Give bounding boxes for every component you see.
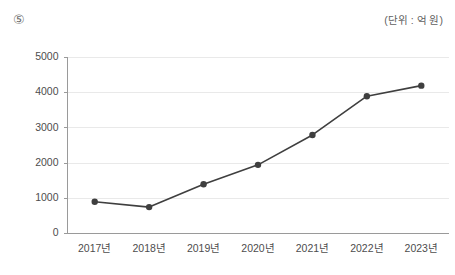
question-number-marker: ⑤ xyxy=(13,12,25,28)
y-tick-label: 0 xyxy=(53,226,59,238)
data-point xyxy=(418,82,424,88)
x-tick-label: 2018년 xyxy=(132,242,165,254)
line-chart: 010002000300040005000 2017년2018년2019년202… xyxy=(0,40,455,275)
chart-svg: 010002000300040005000 2017년2018년2019년202… xyxy=(0,40,455,275)
gridlines xyxy=(68,58,449,199)
y-tick-label: 4000 xyxy=(35,85,59,97)
y-tick-labels: 010002000300040005000 xyxy=(35,50,59,238)
chart-header: ⑤ (단위 : 억 원) xyxy=(0,12,455,34)
x-tick-label: 2017년 xyxy=(78,242,111,254)
x-tick-labels: 2017년2018년2019년2020년2021년2022년2023년 xyxy=(78,242,438,254)
y-tick-label: 5000 xyxy=(35,50,59,62)
x-tick-label: 2022년 xyxy=(350,242,383,254)
y-tick-label: 1000 xyxy=(35,191,59,203)
unit-note-label: (단위 : 억 원) xyxy=(384,13,443,28)
y-tick-label: 2000 xyxy=(35,156,59,168)
y-tick-marks xyxy=(64,58,68,234)
data-point xyxy=(146,204,152,210)
data-point xyxy=(255,162,261,168)
data-point xyxy=(92,199,98,205)
x-tick-label: 2020년 xyxy=(241,242,274,254)
x-tick-label: 2021년 xyxy=(296,242,329,254)
y-tick-label: 3000 xyxy=(35,121,59,133)
data-point xyxy=(200,181,206,187)
series-polyline xyxy=(95,86,422,207)
x-tick-label: 2023년 xyxy=(405,242,438,254)
data-point xyxy=(309,132,315,138)
chart-page: ⑤ (단위 : 억 원) 010002000300040005000 2017년… xyxy=(0,0,455,275)
series-markers xyxy=(92,82,425,210)
data-point xyxy=(364,93,370,99)
x-tick-label: 2019년 xyxy=(187,242,220,254)
